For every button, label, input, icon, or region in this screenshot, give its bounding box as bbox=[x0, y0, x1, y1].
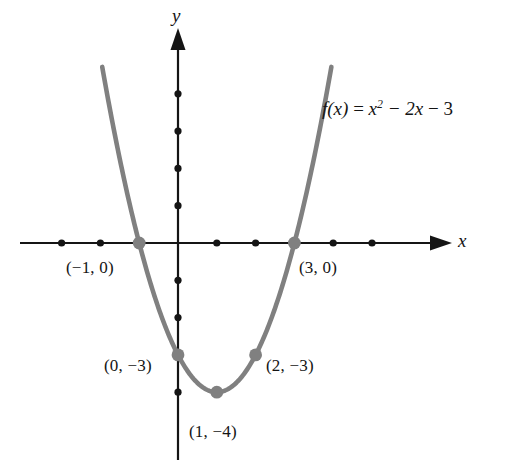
point-vertex bbox=[210, 386, 223, 399]
label-root-right: (3, 0) bbox=[299, 259, 337, 276]
y-axis-arrowhead bbox=[171, 28, 186, 50]
y-tick-2 bbox=[174, 165, 181, 172]
x-axis-label: x bbox=[458, 231, 466, 250]
function-term1-base: x bbox=[369, 98, 377, 119]
y-tick-1 bbox=[174, 202, 181, 209]
x-tick-1 bbox=[213, 239, 220, 246]
label-vertex: (1, −4) bbox=[189, 423, 237, 440]
x-tick-minus3 bbox=[58, 239, 65, 246]
y-tick-minus2 bbox=[174, 314, 181, 321]
point-y-intercept bbox=[172, 349, 185, 362]
label-y-intercept: (0, −3) bbox=[104, 357, 152, 374]
x-tick-4 bbox=[330, 239, 337, 246]
point-root-left bbox=[133, 237, 146, 250]
label-root-left: (−1, 0) bbox=[66, 259, 114, 276]
parabola-plot bbox=[0, 0, 507, 467]
point-symmetric bbox=[249, 349, 262, 362]
x-tick-2 bbox=[252, 239, 259, 246]
y-tick-4 bbox=[174, 90, 181, 97]
x-tick-minus2 bbox=[97, 239, 104, 246]
axes-group bbox=[20, 28, 452, 460]
y-tick-3 bbox=[174, 128, 181, 135]
x-tick-5 bbox=[368, 239, 375, 246]
function-equation-label: f(x) = x2 − 2x − 3 bbox=[322, 99, 453, 118]
function-term3: − 3 bbox=[428, 98, 453, 119]
y-tick-minus4 bbox=[174, 389, 181, 396]
label-symmetric-point: (2, −3) bbox=[266, 357, 314, 374]
y-axis-label: y bbox=[172, 6, 180, 25]
y-tick-minus1 bbox=[174, 277, 181, 284]
function-equals: = bbox=[353, 98, 364, 119]
graph-figure: y x f(x) = x2 − 2x − 3 (−1, 0) (3, 0) (0… bbox=[0, 0, 507, 467]
point-root-right bbox=[288, 237, 301, 250]
function-term2: − 2x bbox=[388, 98, 424, 119]
function-lhs: f(x) bbox=[322, 98, 348, 119]
x-axis-arrowhead bbox=[430, 236, 452, 251]
